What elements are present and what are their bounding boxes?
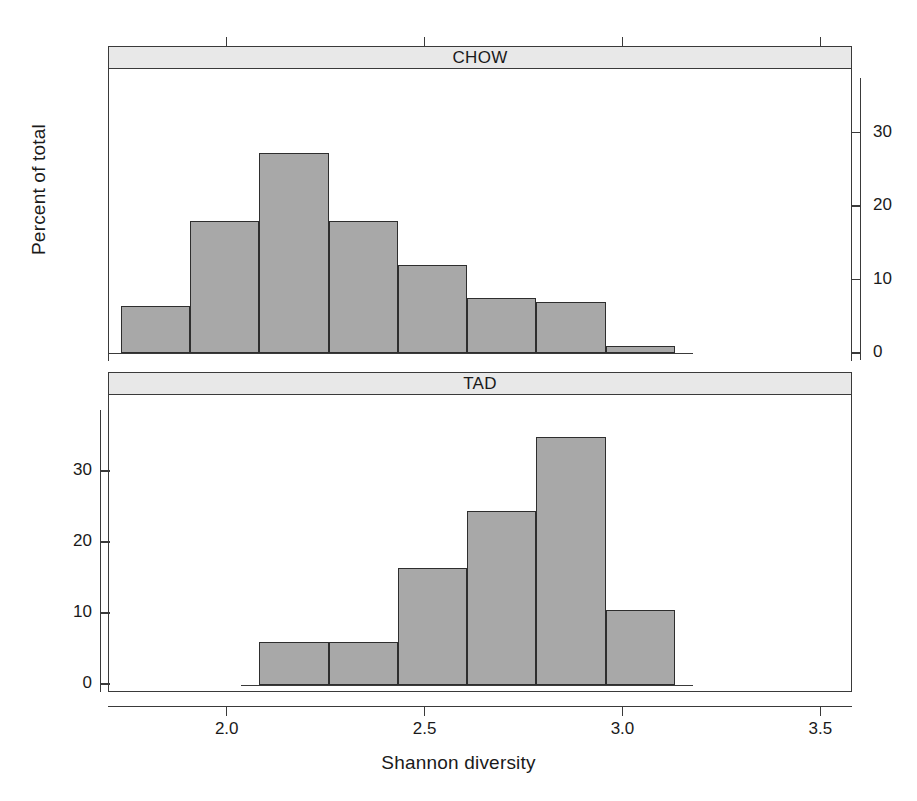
y-axis-spine-chow (860, 78, 861, 360)
bar (467, 511, 536, 685)
y-tick-label-chow: 30 (873, 122, 892, 142)
bar (259, 642, 328, 685)
y-tick-tad (101, 470, 110, 471)
bar (121, 306, 190, 353)
x-tick-top (226, 37, 227, 46)
panel-strip-tad: TAD (108, 372, 852, 395)
y-tick-chow (851, 279, 860, 280)
bar (467, 298, 536, 353)
x-tick-label: 3.5 (790, 719, 850, 739)
y-axis-spine-tad (100, 410, 101, 692)
y-axis-title: Percent of total (28, 124, 50, 255)
x-tick-top (820, 37, 821, 46)
y-tick-chow (851, 205, 860, 206)
y-tick-tad (101, 541, 110, 542)
x-tick (424, 707, 425, 716)
x-tick (622, 707, 623, 716)
bar (259, 153, 328, 353)
y-tick-chow (851, 352, 860, 353)
y-tick-tad (101, 683, 110, 684)
panel-baseline (241, 685, 693, 686)
plot-area-tad (108, 394, 852, 692)
panel-strip-label-chow: CHOW (452, 48, 507, 68)
x-tick-label: 3.0 (592, 719, 652, 739)
bar (190, 221, 259, 353)
y-tick-tad (101, 612, 110, 613)
bar-series-tad (109, 395, 851, 691)
panel-tad: TAD (108, 372, 852, 692)
y-tick-label-chow: 20 (873, 195, 892, 215)
x-tick-label: 2.5 (395, 719, 455, 739)
bar (398, 568, 467, 685)
panel-strip-chow: CHOW (108, 46, 852, 69)
x-tick-top (424, 37, 425, 46)
chart-figure: Percent of total Shannon diversity CHOW … (0, 0, 917, 801)
y-tick-label-tad: 0 (40, 673, 92, 693)
panel-chow: CHOW (108, 46, 852, 361)
bar (536, 302, 605, 353)
bar (606, 610, 675, 685)
panel-baseline (108, 353, 693, 354)
x-tick (820, 707, 821, 716)
x-tick (226, 707, 227, 716)
x-tick-label: 2.0 (197, 719, 257, 739)
plot-area-chow (108, 68, 852, 361)
bar (329, 221, 398, 353)
bar (606, 346, 675, 353)
bar (398, 265, 467, 353)
y-tick-label-tad: 20 (40, 531, 92, 551)
y-tick-label-tad: 30 (40, 460, 92, 480)
bar (329, 642, 398, 685)
x-axis-title: Shannon diversity (0, 752, 917, 774)
bar (536, 437, 605, 686)
x-axis-line (108, 706, 852, 707)
y-tick-label-tad: 10 (40, 602, 92, 622)
y-tick-chow (851, 132, 860, 133)
bar-series-chow (109, 68, 851, 361)
y-tick-label-chow: 10 (873, 269, 892, 289)
y-tick-label-chow: 0 (873, 342, 882, 362)
x-tick-top (622, 37, 623, 46)
panel-strip-label-tad: TAD (463, 374, 497, 394)
